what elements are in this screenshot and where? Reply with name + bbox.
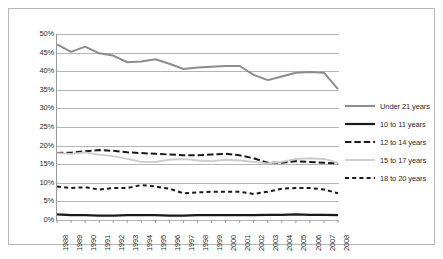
- x-tick-label: 2007: [328, 235, 337, 251]
- x-tick-label: 1993: [131, 235, 140, 251]
- legend-swatch-icon: [345, 137, 375, 147]
- x-tick-label: 1999: [215, 235, 224, 251]
- y-tick-label: 0%: [44, 216, 54, 224]
- legend-item-15-to-17-years[interactable]: 15 to 17 years: [345, 151, 443, 169]
- series-line-12-to-14-years: [57, 150, 338, 163]
- x-tick-label: 1996: [173, 235, 182, 251]
- y-tick-label: 45%: [40, 49, 54, 57]
- legend-item-18-to-20-years[interactable]: 18 to 20 years: [345, 169, 443, 187]
- y-tick-label: 15%: [40, 160, 54, 168]
- y-axis: 0%5%10%15%20%25%30%35%40%45%50%: [23, 34, 54, 220]
- plot-area: [57, 34, 339, 220]
- legend-item-10-to-11-years[interactable]: 10 to 11 years: [345, 115, 443, 133]
- x-tick-label: 1989: [75, 235, 84, 251]
- x-tick-label: 2002: [257, 235, 266, 251]
- series-line-18-to-20-years: [57, 185, 338, 194]
- y-tick-label: 20%: [40, 142, 54, 150]
- chart-legend: Under 21 years10 to 11 years12 to 14 yea…: [345, 97, 443, 187]
- y-tick-label: 40%: [40, 67, 54, 75]
- x-tick-label: 1990: [89, 235, 98, 251]
- x-tick-label: 2005: [299, 235, 308, 251]
- x-tick-label: 1992: [117, 235, 126, 251]
- y-tick-label: 5%: [44, 197, 54, 205]
- y-tick-label: 10%: [40, 179, 54, 187]
- chart-container: 0%5%10%15%20%25%30%35%40%45%50% 19881989…: [0, 0, 443, 259]
- x-tick-label: 1994: [145, 235, 154, 251]
- y-tick-label: 35%: [40, 86, 54, 94]
- legend-item-under-21-years[interactable]: Under 21 years: [345, 97, 443, 115]
- x-tick-label: 2000: [229, 235, 238, 251]
- x-tick-label: 2008: [342, 235, 351, 251]
- legend-label: Under 21 years: [380, 102, 430, 111]
- x-axis: 1988198919901991199219931994199519961997…: [57, 223, 339, 255]
- legend-label: 12 to 14 years: [380, 138, 426, 147]
- legend-swatch-icon: [345, 155, 375, 165]
- x-tick-label: 2006: [314, 235, 323, 251]
- x-tick-label: 1988: [61, 235, 70, 251]
- y-tick-label: 25%: [40, 123, 54, 131]
- x-tick-label: 1998: [201, 235, 210, 251]
- legend-swatch-icon: [345, 173, 375, 183]
- legend-swatch-icon: [345, 119, 375, 129]
- y-tick-label: 30%: [40, 104, 54, 112]
- x-tick-label: 2003: [271, 235, 280, 251]
- x-tick-label: 1991: [103, 235, 112, 251]
- legend-swatch-icon: [345, 101, 375, 111]
- y-tick-label: 50%: [40, 30, 54, 38]
- series-line-under-21-years: [57, 44, 338, 89]
- legend-item-12-to-14-years[interactable]: 12 to 14 years: [345, 133, 443, 151]
- series-line-10-to-11-years: [57, 214, 338, 215]
- x-tick-label: 2001: [243, 235, 252, 251]
- legend-label: 10 to 11 years: [380, 120, 426, 129]
- x-tick-label: 1997: [187, 235, 196, 251]
- figure-frame: 0%5%10%15%20%25%30%35%40%45%50% 19881989…: [8, 8, 435, 245]
- x-tick-label: 1995: [159, 235, 168, 251]
- legend-label: 18 to 20 years: [380, 174, 426, 183]
- x-tick-label: 2004: [285, 235, 294, 251]
- legend-label: 15 to 17 years: [380, 156, 426, 165]
- plot-svg: [57, 34, 339, 224]
